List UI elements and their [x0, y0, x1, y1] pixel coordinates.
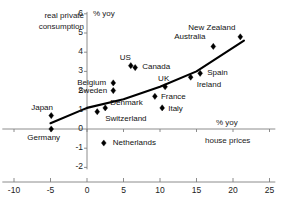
point-label-canada: Canada: [142, 62, 170, 71]
data-point-marker: [49, 126, 54, 132]
y-tick-label: 0: [70, 124, 83, 133]
x-tick-label: 5: [109, 186, 139, 195]
point-label-switzerland: Switzerland: [105, 114, 146, 123]
data-point-marker: [101, 140, 106, 146]
y-tick-label: 6: [70, 9, 83, 18]
point-label-netherlands: Netherlands: [113, 138, 156, 147]
y-tick-label: -1: [70, 143, 83, 152]
x-tick-label: 20: [218, 186, 248, 195]
data-point-marker: [103, 105, 108, 111]
point-label-new-zealand: New Zealand: [188, 23, 235, 32]
point-label-denmark: Denmark: [110, 98, 142, 107]
data-point-marker: [49, 112, 54, 118]
data-point-marker: [152, 93, 157, 99]
y-tick-label: -2: [70, 162, 83, 171]
y-axis-unit-label: % yoy: [93, 9, 115, 19]
y-tick-label: 5: [70, 28, 83, 37]
x-axis-title: house prices: [205, 136, 250, 146]
point-label-ireland: Ireland: [197, 80, 221, 89]
x-tick-label: 10: [145, 186, 175, 195]
point-label-australia: Australia: [174, 32, 205, 41]
point-label-uk: UK: [158, 74, 169, 83]
data-point-marker: [111, 88, 116, 94]
data-point-marker: [95, 109, 100, 115]
point-label-france: France: [161, 92, 186, 101]
x-tick-label: 0: [72, 186, 102, 195]
x-axis-unit-label: % yoy: [216, 118, 238, 128]
point-label-sweden: Sweden: [78, 86, 107, 95]
point-label-spain: Spain: [207, 68, 227, 77]
x-tick-label: -5: [36, 186, 66, 195]
data-point-marker: [128, 63, 133, 69]
x-tick-label: 15: [182, 186, 212, 195]
data-point-marker: [160, 105, 165, 111]
data-point-marker: [111, 80, 116, 86]
data-point-marker: [211, 43, 216, 49]
y-tick-label: 3: [70, 66, 83, 75]
point-label-belgium: Belgium: [77, 78, 106, 87]
point-label-japan: Japan: [31, 103, 53, 112]
data-point-marker: [133, 64, 138, 70]
x-tick-label: 25: [255, 186, 281, 195]
point-label-us: US: [120, 53, 131, 62]
scatter-chart: % yoy % yoy house prices real private co…: [0, 0, 280, 203]
point-label-germany: Germany: [27, 133, 60, 142]
y-tick-label: 1: [70, 105, 83, 114]
point-label-italy: Italy: [168, 104, 183, 113]
y-tick-label: 4: [70, 47, 83, 56]
x-tick-label: -10: [0, 186, 29, 195]
data-point-marker: [238, 34, 243, 40]
